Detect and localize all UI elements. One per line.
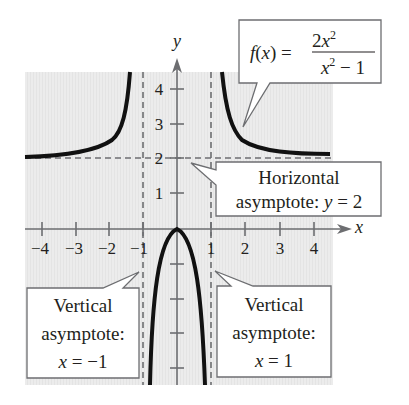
y-tick-label: 3	[155, 115, 164, 134]
rational-function-graph: −4 −3 −2 −1 1 2 3 4 4 3 2 1 y x f(x) = 2…	[0, 0, 409, 405]
svg-text:x2 − 1: x2 − 1	[320, 55, 365, 78]
vertical-left-callout-line2: asymptote:	[41, 323, 124, 344]
vertical-asymptote-left-callout: Vertical asymptote: x = −1	[27, 272, 139, 378]
vertical-left-callout-line1: Vertical	[53, 295, 112, 316]
x-tick-label: −2	[98, 239, 116, 258]
x-tick-label: −3	[65, 239, 83, 258]
y-tick-label: 2	[155, 149, 164, 168]
vertical-asymptote-right-callout: Vertical asymptote: x = 1	[215, 271, 331, 377]
y-tick-label: 1	[155, 184, 164, 203]
x-axis-label: x	[354, 217, 363, 237]
x-tick-label: 2	[241, 239, 250, 258]
y-axis-label: y	[171, 31, 181, 51]
horizontal-asymptote-callout: Horizontal asymptote: y = 2	[191, 162, 381, 216]
vertical-right-callout-line2: asymptote:	[232, 322, 315, 343]
x-tick-label: 3	[276, 239, 285, 258]
svg-text:f(x) =: f(x) =	[250, 42, 292, 64]
vertical-right-callout-line1: Vertical	[244, 294, 303, 315]
horizontal-callout-line1: Horizontal	[258, 167, 339, 188]
horizontal-callout-line2: asymptote: y = 2	[236, 191, 362, 212]
x-tick-label: 1	[207, 239, 216, 258]
x-tick-label: −4	[31, 239, 50, 258]
x-tick-label: 4	[310, 239, 319, 258]
y-tick-label: 4	[155, 80, 164, 99]
vertical-left-callout-line3: x = −1	[58, 351, 108, 372]
vertical-right-callout-line3: x = 1	[254, 350, 293, 371]
x-tick-label: −1	[130, 239, 148, 258]
